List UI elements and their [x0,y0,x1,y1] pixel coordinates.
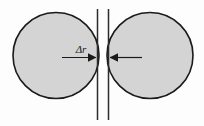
delta-r-label: Δr [75,43,87,55]
figure-container: Δr [0,0,204,126]
diagram-canvas: Δr [0,0,204,126]
left-circle [13,13,99,99]
right-circle [107,13,193,99]
